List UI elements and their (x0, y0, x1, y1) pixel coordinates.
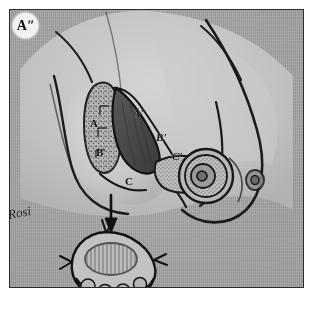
label-A-prime: A' (133, 107, 143, 119)
label-C-prime: C' (172, 150, 182, 162)
label-B-prime: B' (156, 131, 166, 143)
illustration-plate (9, 9, 304, 288)
figure-root: Aʺ A B C A' B' C' Rosi (0, 0, 311, 313)
panel-badge: Aʺ (13, 13, 38, 38)
label-B: B (96, 146, 103, 158)
breast-diagram-artwork (10, 10, 303, 287)
excised-specimen (60, 220, 167, 287)
label-C: C (125, 175, 133, 187)
label-A: A (90, 117, 98, 129)
